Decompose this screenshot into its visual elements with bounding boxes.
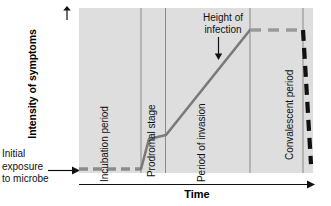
stage-label-convalescent-period: Convalescent period <box>284 70 295 160</box>
decline-dashed-line <box>303 30 311 164</box>
infection-stages-diagram: Initial exposure to microbe Intensity of… <box>0 0 331 206</box>
height-of-infection-label: Height of infection <box>186 12 260 35</box>
stage-label-prodromal-stage: Prodromal stage <box>146 104 157 177</box>
stage-label-incubation-period: Incubation period <box>99 106 110 182</box>
stage-label-period-of-invasion: Period of invasion <box>196 103 207 182</box>
x-axis-label: Time <box>79 188 315 200</box>
height-of-infection-line-2: infection <box>186 24 260 36</box>
arrow-up-icon <box>62 6 72 20</box>
arrow-down-icon <box>214 37 223 60</box>
y-axis-label: Intensity of symptoms <box>26 10 38 158</box>
height-of-infection-line-1: Height of <box>186 12 260 24</box>
arrow-right-icon <box>48 166 80 175</box>
